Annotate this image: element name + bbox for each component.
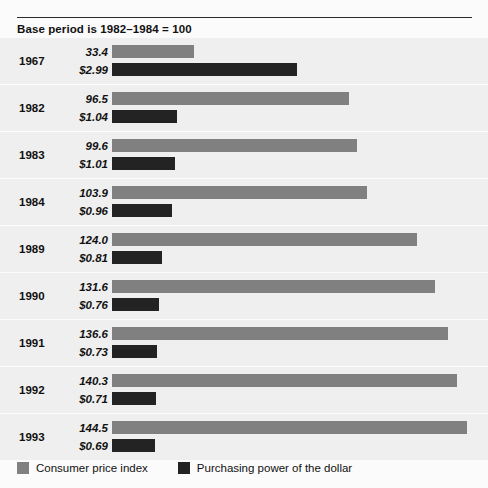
- bar-ppd: [112, 345, 157, 358]
- row-year-label: 1992: [19, 384, 45, 396]
- row-cpi-value: 96.5: [86, 93, 108, 105]
- bar-cpi: [112, 45, 194, 58]
- row-value-labels: 136.6$0.73: [56, 320, 108, 366]
- bar-cpi: [112, 92, 349, 105]
- bar-cpi: [112, 327, 448, 340]
- bar-cpi: [112, 139, 357, 152]
- bar-ppd: [112, 439, 155, 452]
- row-bars: [112, 414, 488, 460]
- row-cpi-value: 144.5: [79, 422, 108, 434]
- row-value-labels: 140.3$0.71: [56, 367, 108, 413]
- row-value-labels: 131.6$0.76: [56, 273, 108, 319]
- row-bars: [112, 38, 488, 84]
- legend-label-ppd: Purchasing power of the dollar: [197, 462, 352, 474]
- bar-ppd: [112, 392, 156, 405]
- bar-ppd: [112, 298, 159, 311]
- row-cpi-value: 99.6: [86, 140, 108, 152]
- chart-row: 1990131.6$0.76: [0, 273, 488, 319]
- row-ppd-value: $0.73: [79, 346, 108, 358]
- row-year-label: 1991: [19, 337, 45, 349]
- legend-swatch-ppd-icon: [178, 462, 190, 474]
- row-bars: [112, 273, 488, 319]
- row-ppd-value: $0.76: [79, 299, 108, 311]
- row-value-labels: 99.6$1.01: [56, 132, 108, 178]
- row-year-label: 1967: [19, 55, 45, 67]
- legend-label-cpi: Consumer price index: [36, 462, 148, 474]
- chart-row: 1984103.9$0.96: [0, 179, 488, 225]
- bar-cpi: [112, 374, 457, 387]
- row-value-labels: 144.5$0.69: [56, 414, 108, 460]
- chart-row: 1991136.6$0.73: [0, 320, 488, 366]
- row-ppd-value: $1.01: [79, 158, 108, 170]
- chart-plot-area: 196733.4$2.99198296.5$1.04198399.6$1.011…: [0, 38, 488, 461]
- row-ppd-value: $2.99: [79, 64, 108, 76]
- row-ppd-value: $0.81: [79, 252, 108, 264]
- row-bars: [112, 320, 488, 366]
- chart-subtitle: Base period is 1982–1984 = 100: [17, 23, 192, 35]
- chart-row: 198296.5$1.04: [0, 85, 488, 131]
- row-year-label: 1983: [19, 149, 45, 161]
- row-ppd-value: $0.96: [79, 205, 108, 217]
- row-value-labels: 96.5$1.04: [56, 85, 108, 131]
- row-bars: [112, 226, 488, 272]
- row-value-labels: 33.4$2.99: [56, 38, 108, 84]
- row-bars: [112, 85, 488, 131]
- row-ppd-value: $0.71: [79, 393, 108, 405]
- chart-row: 1993144.5$0.69: [0, 414, 488, 460]
- bar-cpi: [112, 280, 435, 293]
- chart-legend: Consumer price index Purchasing power of…: [17, 462, 352, 474]
- row-year-label: 1989: [19, 243, 45, 255]
- row-value-labels: 103.9$0.96: [56, 179, 108, 225]
- bar-ppd: [112, 204, 172, 217]
- bar-ppd: [112, 157, 175, 170]
- row-cpi-value: 103.9: [79, 187, 108, 199]
- row-value-labels: 124.0$0.81: [56, 226, 108, 272]
- row-year-label: 1982: [19, 102, 45, 114]
- bar-ppd: [112, 63, 297, 76]
- cpi-purchasing-power-chart: Base period is 1982–1984 = 100 196733.4$…: [0, 0, 488, 488]
- row-cpi-value: 124.0: [79, 234, 108, 246]
- row-cpi-value: 140.3: [79, 375, 108, 387]
- row-cpi-value: 136.6: [79, 328, 108, 340]
- bar-cpi: [112, 233, 417, 246]
- chart-row: 1989124.0$0.81: [0, 226, 488, 272]
- row-ppd-value: $0.69: [79, 440, 108, 452]
- row-bars: [112, 179, 488, 225]
- row-year-label: 1990: [19, 290, 45, 302]
- bar-cpi: [112, 186, 367, 199]
- legend-item-cpi: Consumer price index: [17, 462, 148, 474]
- row-bars: [112, 132, 488, 178]
- legend-swatch-cpi-icon: [17, 462, 29, 474]
- bar-ppd: [112, 110, 177, 123]
- chart-row: 198399.6$1.01: [0, 132, 488, 178]
- row-year-label: 1984: [19, 196, 45, 208]
- row-bars: [112, 367, 488, 413]
- row-cpi-value: 131.6: [79, 281, 108, 293]
- row-cpi-value: 33.4: [86, 46, 108, 58]
- chart-row: 1992140.3$0.71: [0, 367, 488, 413]
- row-year-label: 1993: [19, 431, 45, 443]
- chart-row: 196733.4$2.99: [0, 38, 488, 84]
- legend-item-ppd: Purchasing power of the dollar: [178, 462, 352, 474]
- row-ppd-value: $1.04: [79, 111, 108, 123]
- bar-cpi: [112, 421, 467, 434]
- top-divider-rule: [17, 17, 472, 18]
- bar-ppd: [112, 251, 162, 264]
